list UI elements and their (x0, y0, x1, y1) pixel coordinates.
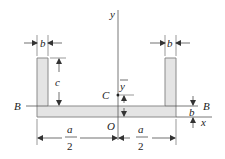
b-top-left-label: b (40, 37, 46, 49)
b-top-right-label: b (167, 37, 173, 49)
x-axis-label: x (200, 116, 206, 128)
origin-label: O (107, 120, 115, 132)
y-axis-label: y (109, 8, 115, 20)
a-den-left: 2 (67, 140, 73, 152)
centroid-point (117, 94, 120, 97)
b-label-left: B (14, 100, 21, 112)
b-bottom-label: b (189, 106, 195, 118)
a-num-left: a (67, 123, 73, 135)
channel-section-diagram: y x B B b b c C y b O a 2 a 2 (0, 0, 225, 159)
c-label: c (55, 76, 60, 88)
b-label-right: B (203, 100, 210, 112)
a-num-right: a (138, 123, 144, 135)
ybar-label: y (119, 80, 125, 92)
a-den-right: 2 (138, 140, 144, 152)
centroid-label: C (102, 89, 110, 101)
